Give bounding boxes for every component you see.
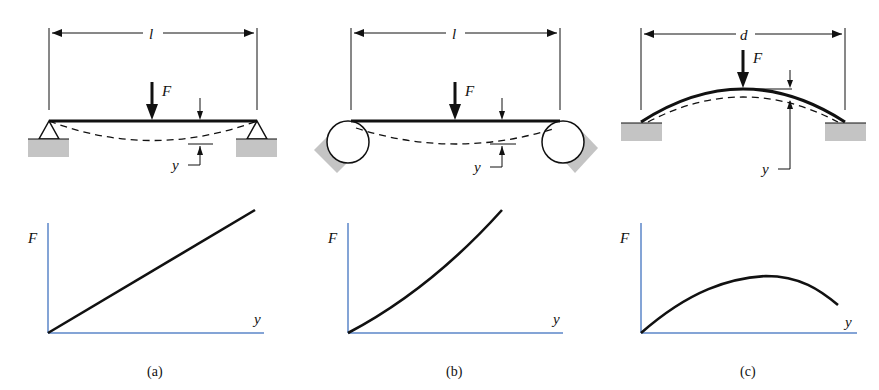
deflected-shape-b xyxy=(356,128,556,144)
pin-support-left xyxy=(39,121,59,139)
x-axis-label-c: y xyxy=(843,314,852,330)
panel-a-beam-diagram: l F y xyxy=(28,26,277,173)
curve-a xyxy=(48,210,255,333)
deflection-label-a: y xyxy=(170,157,179,173)
force-arrow-icon xyxy=(737,72,749,88)
caption-c: (c) xyxy=(740,364,756,380)
roller-support-left xyxy=(327,121,369,163)
span-label-a: l xyxy=(149,26,153,42)
roller-support-right xyxy=(542,121,584,163)
x-axis-label-a: y xyxy=(252,311,261,327)
plot-c: F y (c) xyxy=(619,223,857,380)
plot-b: F y (b) xyxy=(327,210,563,380)
span-label-c: d xyxy=(740,27,748,43)
force-arrow-icon xyxy=(449,104,461,120)
caption-a: (a) xyxy=(147,364,163,380)
deflection-label-c: y xyxy=(760,161,769,177)
y-axis-label-c: F xyxy=(619,230,630,246)
arch-c xyxy=(641,89,845,122)
y-axis-label-b: F xyxy=(327,230,338,246)
caption-b: (b) xyxy=(446,364,463,380)
force-arrow-icon xyxy=(146,104,158,120)
curve-c xyxy=(641,276,838,333)
deflected-shape-a xyxy=(49,121,257,141)
curve-b xyxy=(348,210,502,333)
fixed-support-right xyxy=(825,123,866,141)
panel-b-beam-diagram: l F y xyxy=(314,26,598,175)
force-label-a: F xyxy=(161,83,172,99)
deflected-shape-c xyxy=(648,97,838,122)
span-label-b: l xyxy=(452,26,456,42)
x-axis-label-b: y xyxy=(551,311,560,327)
panel-c-arch-diagram: d F y xyxy=(621,27,866,177)
force-label-c: F xyxy=(752,50,763,66)
force-label-b: F xyxy=(464,83,475,99)
y-axis-label-a: F xyxy=(27,230,38,246)
deflection-label-b: y xyxy=(472,159,481,175)
plot-a: F y (a) xyxy=(27,210,264,380)
fixed-support-left xyxy=(621,123,662,141)
figure-canvas: l F y l F xyxy=(0,0,879,390)
